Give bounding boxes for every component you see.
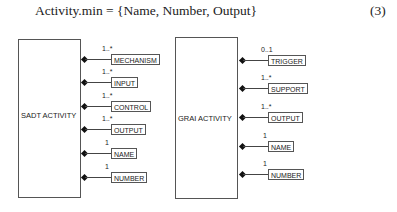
multiplicity: 1..* (102, 115, 113, 122)
multiplicity: 1..* (102, 92, 113, 99)
attribute-box: OUTPUT (268, 112, 303, 123)
connector-line (85, 106, 111, 107)
connector-line (243, 60, 268, 61)
grai-activity-label: GRAI ACTIVITY (178, 114, 232, 123)
attribute-box: NUMBER (268, 169, 304, 180)
attribute-box: TRIGGER (268, 55, 306, 66)
equation: Activity.min = {Name, Number, Output} (35, 3, 257, 19)
sadt-activity-label: SADT ACTIVITY (21, 111, 76, 120)
multiplicity: 1 (263, 160, 267, 167)
connector-line (85, 82, 111, 83)
attribute-box: MECHANISM (111, 54, 160, 65)
connector-line (243, 146, 268, 147)
connector-line (243, 117, 268, 118)
multiplicity: 1..* (102, 45, 113, 52)
connector-line (243, 174, 268, 175)
connector-line (85, 59, 111, 60)
multiplicity: 1..* (102, 68, 113, 75)
attribute-box: NUMBER (111, 172, 147, 183)
multiplicity: 1..* (261, 103, 272, 110)
multiplicity: 1 (105, 139, 109, 146)
multiplicity: 1..* (261, 74, 272, 81)
attribute-box: NAME (111, 148, 137, 159)
attribute-box: CONTROL (111, 101, 151, 112)
connector-line (85, 153, 111, 154)
attribute-box: SUPPORT (268, 83, 308, 94)
multiplicity: 0..1 (261, 46, 273, 53)
multiplicity: 1 (263, 132, 267, 139)
attribute-box: NAME (268, 141, 294, 152)
multiplicity: 1 (105, 163, 109, 170)
attribute-box: OUTPUT (111, 124, 146, 135)
connector-line (85, 177, 111, 178)
connector-line (85, 129, 111, 130)
connector-line (243, 88, 268, 89)
equation-number: (3) (370, 3, 386, 19)
attribute-box: INPUT (111, 77, 138, 88)
